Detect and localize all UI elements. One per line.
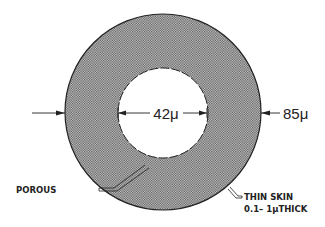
skin-label-line1: THIN SKIN	[244, 192, 293, 202]
inner-diameter-label: 42μ	[153, 105, 178, 122]
porous-label: POROUS	[16, 185, 56, 195]
outer-diameter-label: 85μ	[283, 105, 308, 122]
skin-label-line2: 0.1– 1μTHICK	[244, 204, 308, 214]
fiber-cross-section-diagram: 42μ 85μ POROUS THIN SKIN 0.1– 1μTHICK	[0, 0, 325, 227]
arrow-right-icon	[56, 111, 65, 116]
skin-callout: THIN SKIN 0.1– 1μTHICK	[228, 187, 308, 214]
arrow-left-icon	[261, 111, 270, 116]
